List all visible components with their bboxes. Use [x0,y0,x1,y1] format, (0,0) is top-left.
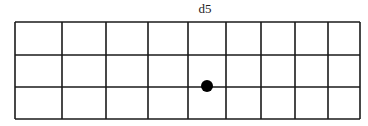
dot-marker [201,80,213,92]
grid-diagram [0,0,368,126]
